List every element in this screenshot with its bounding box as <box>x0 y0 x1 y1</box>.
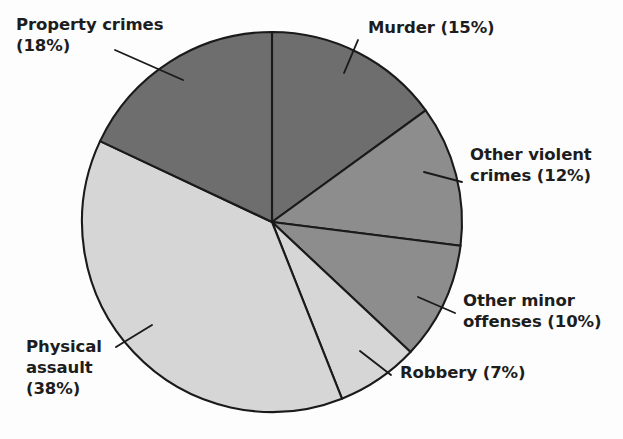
pie-slices <box>82 32 462 412</box>
pie-label-robbery: Robbery (7%) <box>400 362 525 383</box>
pie-label-property-crimes: Property crimes (18%) <box>16 14 163 56</box>
pie-label-murder: Murder (15%) <box>368 17 495 38</box>
pie-label-other-violent-crimes: Other violent crimes (12%) <box>470 144 592 186</box>
pie-label-physical-assault: Physical assault (38%) <box>26 336 102 399</box>
pie-chart-figure: Property crimes (18%) Murder (15%) Other… <box>0 0 623 439</box>
pie-label-other-minor-offenses: Other minor offenses (10%) <box>463 290 601 332</box>
